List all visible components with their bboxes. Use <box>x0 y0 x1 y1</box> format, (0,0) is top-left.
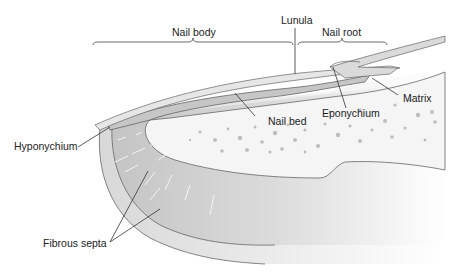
label-lunula: Lunula <box>281 15 313 26</box>
nail-body-bracket <box>93 38 293 45</box>
nail-anatomy-diagram: Lunula Nail body Nail root Matrix Eponyc… <box>0 0 459 277</box>
label-nail-root: Nail root <box>322 27 361 38</box>
nail-root-bracket <box>298 38 387 45</box>
label-nail-body: Nail body <box>172 27 216 38</box>
label-eponychium: Eponychium <box>322 108 380 119</box>
label-fibrous-septa: Fibrous septa <box>43 238 107 249</box>
label-matrix: Matrix <box>403 93 432 104</box>
label-nail-bed: Nail bed <box>268 116 307 127</box>
nail-illustration <box>0 0 459 277</box>
label-hyponychium: Hyponychium <box>14 141 78 152</box>
